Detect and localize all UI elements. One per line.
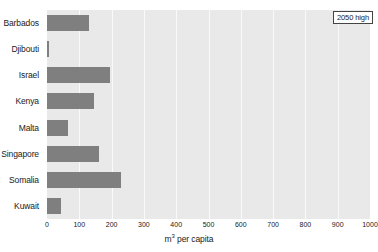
x-tick-label: 900 [332, 221, 344, 228]
bar [47, 15, 89, 31]
x-tick-label: 300 [138, 221, 150, 228]
x-tick-label: 0 [45, 221, 49, 228]
bar-row [47, 172, 370, 188]
category-axis-labels: BarbadosDjiboutiIsraelKenyaMaltaSingapor… [0, 10, 43, 219]
category-label-malta: Malta [19, 123, 39, 133]
x-axis-title-suffix: per capita [175, 234, 214, 244]
category-label-israel: Israel [19, 70, 39, 80]
bar [47, 198, 61, 214]
category-label-kuwait: Kuwait [14, 201, 39, 211]
bar [47, 146, 99, 162]
category-label-kenya: Kenya [15, 96, 39, 106]
bar-row [47, 198, 370, 214]
bar-row [47, 146, 370, 162]
legend: 2050 high [333, 11, 373, 24]
bar-row [47, 15, 370, 31]
bar [47, 120, 68, 136]
x-tick-label: 800 [300, 221, 312, 228]
x-axis-title-prefix: m [165, 234, 172, 244]
bar [47, 93, 94, 109]
x-axis-tick-labels: 01002003004005006007008009001000 [47, 221, 370, 235]
category-label-djibouti: Djibouti [11, 44, 39, 54]
bar-row [47, 93, 370, 109]
plot-area [47, 10, 370, 219]
x-tick-label: 500 [203, 221, 215, 228]
x-tick-label: 1000 [362, 221, 378, 228]
x-tick-label: 200 [106, 221, 118, 228]
bar [47, 172, 121, 188]
x-tick-label: 700 [267, 221, 279, 228]
bar-row [47, 67, 370, 83]
bar-row [47, 41, 370, 57]
x-axis-title: m3 per capita [0, 234, 378, 244]
legend-label: 2050 high [337, 13, 369, 22]
bar-chart: BarbadosDjiboutiIsraelKenyaMaltaSingapor… [0, 0, 378, 252]
category-label-somalia: Somalia [9, 175, 39, 185]
bar-row [47, 120, 370, 136]
x-tick-label: 400 [170, 221, 182, 228]
bar [47, 41, 49, 57]
x-tick-label: 600 [235, 221, 247, 228]
x-tick-label: 100 [73, 221, 85, 228]
bar [47, 67, 110, 83]
category-label-barbados: Barbados [3, 18, 39, 28]
category-label-singapore: Singapore [1, 149, 39, 159]
